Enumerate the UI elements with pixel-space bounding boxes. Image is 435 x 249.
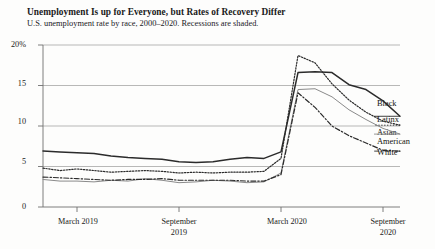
series-line-asian-american (43, 89, 400, 183)
series-line-latinx (43, 56, 400, 173)
unemployment-by-race-chart: Unemployment Is up for Everyone, but Rat… (0, 0, 435, 249)
plot-area (0, 0, 435, 249)
series-line-white (43, 93, 400, 181)
